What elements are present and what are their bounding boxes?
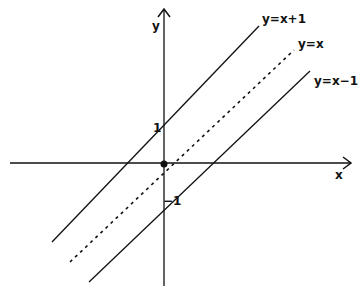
label-y-eq-x-plus-1: y=x+1 [262,13,306,25]
line-y-eq-x-minus-1 [89,71,310,282]
label-y-eq-x: y=x [298,38,324,50]
y-axis-label: y [152,20,160,32]
origin-dot-icon [161,161,168,168]
label-y-eq-x-minus-1: y=x−1 [314,75,358,87]
line-y-eq-x [70,50,294,262]
diagram-canvas: y x 1 −1 y=x+1 y=x y=x−1 [0,0,361,293]
tick-label-1: 1 [153,122,161,134]
tick-label-neg1: −1 [163,195,181,207]
x-axis-label: x [335,169,343,181]
